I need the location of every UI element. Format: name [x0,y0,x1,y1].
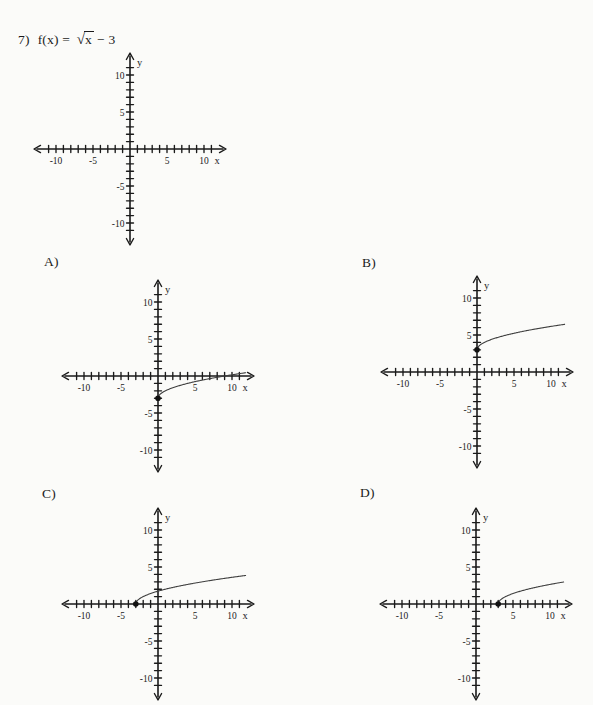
y-tick-label: 5 [120,108,125,118]
x-tick-label: -10 [78,611,91,621]
y-tick-label: 10 [115,71,125,81]
y-axis-label: y [483,512,489,523]
choice-d-curve [498,582,564,604]
x-tick-label: 5 [512,379,517,389]
x-tick-label: -5 [89,156,97,166]
y-axis-label: y [484,280,490,291]
y-tick-label: -5 [145,409,153,419]
y-tick-label: -5 [463,637,471,647]
y-tick-label: 5 [467,331,472,341]
choice-a-svg: -10-10-5-5551010xy [53,271,263,481]
choice-a-label: A) [44,254,59,270]
x-tick-label: 10 [546,379,556,389]
choice-d-graph: -10-10-5-5551010xy [371,499,581,705]
y-tick-label: -10 [140,674,153,684]
y-tick-label: -5 [117,182,125,192]
y-axis-label: y [165,512,171,523]
problem-grid-svg: -10-10-5-5551010xy [25,44,235,254]
x-tick-label: -10 [396,611,409,621]
choice-b-curve [477,324,565,350]
choice-a-graph: -10-10-5-5551010xy [53,271,263,481]
y-axis-label: y [165,284,171,295]
x-tick-label: -5 [117,611,125,621]
x-tick-label: -5 [436,379,444,389]
x-tick-label: 10 [199,156,209,166]
x-tick-label: 5 [193,611,198,621]
y-tick-label: 5 [148,563,153,573]
x-axis-label: x [242,382,248,393]
y-tick-label: -5 [145,637,153,647]
x-tick-label: 5 [165,156,170,166]
x-tick-label: -5 [435,611,443,621]
x-axis-label: x [242,610,248,621]
y-tick-label: 10 [462,294,472,304]
x-axis-label: x [560,610,566,621]
x-tick-label: 5 [511,611,516,621]
y-tick-label: -10 [140,446,153,456]
choice-d-svg: -10-10-5-5551010xy [371,499,581,705]
x-tick-label: -10 [78,383,91,393]
y-tick-label: -5 [464,405,472,415]
problem-graph: -10-10-5-5551010xy [25,44,235,254]
y-tick-label: 5 [466,563,471,573]
choice-d-endpoint-dot [495,601,501,607]
choice-c-curve [136,575,246,604]
y-tick-label: -10 [459,442,472,452]
y-tick-label: -10 [458,674,471,684]
x-tick-label: -10 [50,156,63,166]
y-tick-label: 10 [143,298,153,308]
x-tick-label: 10 [227,383,237,393]
choice-c-endpoint-dot [133,601,139,607]
y-axis-label: y [137,57,143,68]
x-tick-label: 10 [227,611,237,621]
choice-c-svg: -10-10-5-5551010xy [53,499,263,705]
x-axis-label: x [561,378,567,389]
y-tick-label: -10 [112,219,125,229]
x-tick-label: 5 [193,383,198,393]
choice-c-graph: -10-10-5-5551010xy [53,499,263,705]
choice-b-graph: -10-10-5-5551010xy [372,267,582,477]
choice-a-endpoint-dot [155,395,161,401]
choice-b-endpoint-dot [474,347,480,353]
y-tick-label: 10 [143,526,153,536]
y-tick-label: 10 [461,526,471,536]
y-tick-label: 5 [148,335,153,345]
x-tick-label: -10 [397,379,410,389]
x-axis-label: x [214,155,220,166]
x-tick-label: 10 [545,611,555,621]
choice-b-svg: -10-10-5-5551010xy [372,267,582,477]
x-tick-label: -5 [117,383,125,393]
